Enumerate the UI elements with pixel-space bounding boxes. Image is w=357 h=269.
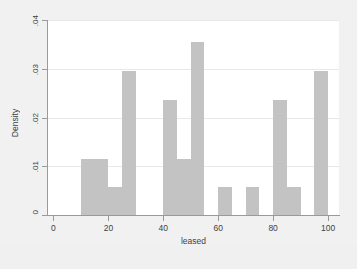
histogram-bar [287,187,301,215]
x-tick [108,216,109,221]
x-tick [163,216,164,221]
x-tick [53,216,54,221]
x-tick [273,216,274,221]
x-axis-title: leased [48,236,339,246]
histogram-bar [218,187,232,215]
histogram-bar [81,159,95,215]
histogram-bar [95,159,109,215]
histogram-bar [163,100,177,215]
histogram-bar [314,71,328,215]
gridline [48,20,339,21]
x-tick [328,216,329,221]
y-axis-line [47,20,48,216]
y-axis-title-text: Density [10,108,20,136]
y-axis-title: Density [10,108,20,136]
histogram-figure: 0.01.02.03.04 020406080100 Density lease… [0,0,357,269]
x-axis-line [47,215,340,216]
y-tick [42,215,47,216]
y-tick [42,166,47,167]
histogram-bar [273,100,287,215]
histogram-bar [108,187,122,215]
histogram-bar [122,71,136,215]
y-tick [42,20,47,21]
x-tick [218,216,219,221]
graph-region: 0.01.02.03.04 020406080100 Density lease… [0,0,357,245]
y-tick [42,69,47,70]
histogram-bar [191,42,205,215]
plot-area [48,20,339,215]
histogram-bar [246,187,260,215]
y-tick [42,118,47,119]
histogram-bar [177,159,191,215]
